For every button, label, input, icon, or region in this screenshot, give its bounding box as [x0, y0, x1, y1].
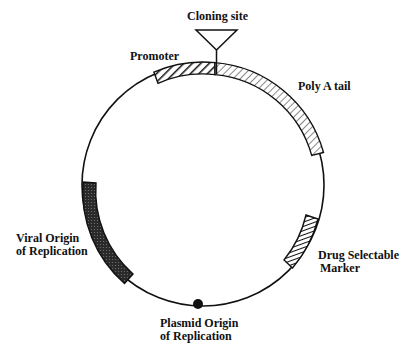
- viral-origin-label: Viral Origin of Replication: [16, 232, 88, 258]
- plasmid-origin-dot-icon: [193, 299, 203, 309]
- cloning-site-triangle-icon: [196, 30, 237, 50]
- promoter-segment: [154, 62, 215, 83]
- drug-marker-label: Drug Selectable Marker: [318, 249, 399, 275]
- plasmid-diagram: [0, 0, 405, 347]
- viral-origin-segment: [83, 182, 133, 284]
- poly-a-tail-segment: [215, 63, 324, 156]
- viral-origin-label-line2: of Replication: [16, 245, 88, 258]
- drug-marker-label-line2: Marker: [318, 262, 399, 275]
- cloning-site-label: Cloning site: [187, 10, 248, 23]
- plasmid-origin-label-line2: of Replication: [160, 330, 238, 343]
- plasmid-origin-label: Plasmid Origin of Replication: [160, 317, 238, 343]
- promoter-label: Promoter: [130, 50, 179, 63]
- drug-marker-segment: [284, 215, 318, 268]
- poly-a-tail-label: Poly A tail: [298, 80, 351, 93]
